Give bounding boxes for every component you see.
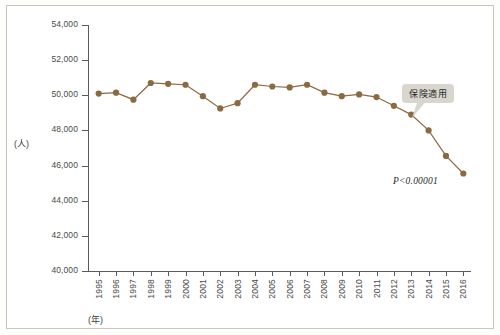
p-value-annotation: P<0.00001 xyxy=(393,176,438,186)
chart-page: (人) (年) 54,00052,00050,00048,00046,00044… xyxy=(0,0,500,335)
callout-tail-icon xyxy=(0,0,500,335)
callout-insurance-coverage: 保険適用 xyxy=(402,84,454,103)
